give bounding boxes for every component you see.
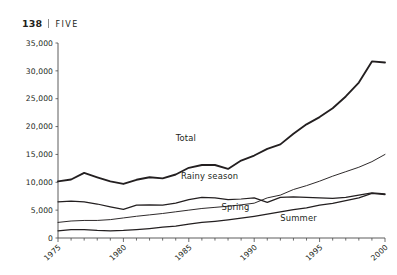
y-axis-tick-label: 0 [48,234,53,243]
series-line-total [58,61,385,184]
y-axis-tick-label: 5,000 [31,206,53,215]
x-axis-tick-label: 1990 [238,243,259,263]
y-axis-tick-label: 35,000 [26,39,53,48]
page-canvas: 138 FIVE 05,00010,00015,00020,00025,0003… [0,0,397,275]
x-axis-tick-label: 1985 [173,243,194,263]
x-axis-tick-label: 1995 [304,243,325,263]
x-axis-tick-label: 2000 [369,243,390,263]
y-axis-tick-label: 30,000 [26,67,53,76]
y-axis: 05,00010,00015,00020,00025,00030,00035,0… [26,39,58,243]
y-axis-tick-label: 10,000 [26,178,53,187]
line-chart-figure: 05,00010,00015,00020,00025,00030,00035,0… [0,0,397,275]
x-axis-tick-label: 1975 [42,243,63,263]
series-label-spring: Spring [222,202,250,212]
series-label-summer: Summer [280,213,317,223]
series-label-total: Total [175,133,196,143]
y-axis-tick-label: 20,000 [26,122,53,131]
series-label-rainy-season: Rainy season [181,171,238,181]
x-axis: 197519801985199019952000 [42,238,390,263]
x-axis-tick-label: 1980 [108,243,129,263]
chart-svg: 05,00010,00015,00020,00025,00030,00035,0… [0,0,397,275]
y-axis-tick-label: 15,000 [26,150,53,159]
y-axis-tick-label: 25,000 [26,94,53,103]
series-line-spring [58,154,385,222]
